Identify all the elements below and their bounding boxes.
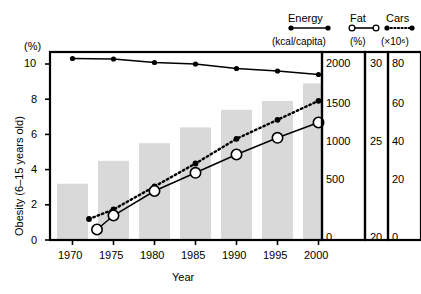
- left-tick-4: 4: [31, 164, 37, 175]
- cars-tick-40: 40: [392, 136, 404, 147]
- cars-tick-0: 0: [392, 232, 398, 243]
- point-energy-1970: [70, 56, 75, 61]
- point-energy-1980: [152, 60, 157, 65]
- energy-tick-2000: 2000: [326, 58, 350, 69]
- x-tick-1985: 1985: [181, 250, 205, 261]
- left-tick-2: 2: [31, 199, 37, 210]
- x-tick-1980: 1980: [140, 250, 164, 261]
- point-energy-1975: [111, 56, 116, 61]
- point-cars-1972: [86, 216, 92, 222]
- left-axis-unit: (%): [24, 41, 41, 52]
- cars-tick-60: 60: [392, 98, 404, 109]
- fat-tick-20: 20: [370, 232, 382, 243]
- point-fat-1985: [190, 168, 200, 178]
- fat-tick-30: 30: [370, 58, 382, 69]
- point-fat-1980: [149, 186, 159, 196]
- point-cars-1995: [275, 117, 281, 123]
- energy-tick-0: 0: [326, 232, 332, 243]
- point-cars-1990: [234, 136, 240, 142]
- bar-1985: [180, 127, 211, 240]
- bar-1990: [221, 110, 252, 240]
- point-energy-1990: [234, 66, 239, 71]
- energy-tick-1500: 1500: [326, 98, 350, 109]
- point-fat-1995: [272, 133, 282, 143]
- fat-tick-25: 25: [370, 136, 382, 147]
- bar-1970: [57, 184, 88, 240]
- point-cars-1985: [193, 161, 199, 167]
- cars-tick-80: 80: [392, 58, 404, 69]
- point-fat-1975: [108, 210, 118, 220]
- chart-figure: Energy (kcal/capita) Fat (%) Cars (×10⁶): [0, 0, 421, 294]
- point-energy-2000: [316, 72, 321, 77]
- left-tick-0: 0: [31, 235, 37, 246]
- cars-tick-20: 20: [392, 174, 404, 185]
- x-axis-title: Year: [172, 272, 194, 283]
- x-tick-1995: 1995: [263, 250, 287, 261]
- x-tick-1975: 1975: [99, 250, 123, 261]
- x-tick-2000: 2000: [304, 250, 328, 261]
- x-tick-1970: 1970: [58, 250, 82, 261]
- left-tick-10: 10: [24, 58, 36, 69]
- left-tick-6: 6: [31, 129, 37, 140]
- line-series-energy: [70, 56, 321, 77]
- energy-tick-500: 500: [326, 174, 344, 185]
- x-tick-1990: 1990: [222, 250, 246, 261]
- point-fat-1990: [231, 149, 241, 159]
- left-tick-8: 8: [31, 94, 37, 105]
- energy-tick-1000: 1000: [326, 136, 350, 147]
- y-axis-title: Obesity (6–15 years old): [14, 116, 25, 236]
- point-cars-2000: [316, 98, 322, 104]
- point-energy-1985: [193, 61, 198, 66]
- point-energy-1995: [275, 68, 280, 73]
- point-fat-1973: [92, 224, 102, 234]
